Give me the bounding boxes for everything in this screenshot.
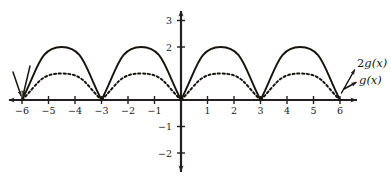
right-label-arrows (342, 70, 357, 93)
x-tick-label-4: 4 (284, 105, 290, 116)
x-tick-label--6: −6 (15, 105, 29, 116)
curve-label-gx-function: g (359, 73, 366, 87)
x-tick-label--5: −5 (41, 105, 55, 116)
x-tick-label-3: 3 (257, 105, 263, 116)
x-tick-labels: −6 −5 −4 −3 −2 −1 1 2 3 4 5 6 (15, 105, 343, 116)
y-tick-label--1: −1 (158, 121, 172, 132)
curve-label-2gx-coefficient: 2 (357, 56, 364, 70)
arrow-to-g-left (13, 72, 21, 96)
x-tick-label--2: −2 (121, 105, 135, 116)
y-tick-label-3: 3 (166, 15, 172, 26)
y-tick-label-2: 2 (166, 42, 172, 53)
graph-figure: −6 −5 −4 −3 −2 −1 1 2 3 4 5 6 3 2 −1 −2 (0, 0, 391, 187)
curve-label-gx: g(x) (359, 73, 382, 87)
curve-label-gx-argument: (x) (366, 73, 381, 87)
curve-label-2gx-function: g (364, 56, 371, 70)
coordinate-plane: −6 −5 −4 −3 −2 −1 1 2 3 4 5 6 3 2 −1 −2 (0, 0, 391, 187)
x-tick-label--1: −1 (147, 105, 161, 116)
x-tick-label-1: 1 (204, 105, 210, 116)
y-tick-labels: 3 2 −1 −2 (158, 15, 172, 159)
x-tick-label-2: 2 (231, 105, 237, 116)
left-endpoint-arrows (13, 66, 30, 96)
curve-label-2gx-argument: (x) (372, 56, 387, 70)
y-tick-label--2: −2 (158, 148, 172, 159)
arrow-to-2g-right (342, 70, 355, 93)
x-tick-label--4: −4 (68, 105, 82, 116)
x-tick-label--3: −3 (94, 105, 108, 116)
curve-label-2gx: 2g(x) (357, 56, 387, 70)
x-tick-label-5: 5 (310, 105, 316, 116)
x-tick-label-6: 6 (337, 105, 343, 116)
axes-group (9, 11, 357, 172)
